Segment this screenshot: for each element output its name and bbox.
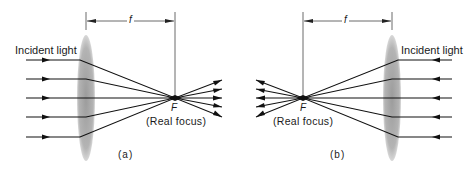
focus-letter-a: F [171, 103, 177, 113]
focal-length-label-a: f [127, 15, 134, 25]
panel-b [256, 12, 452, 161]
lens-diagram-canvas [0, 0, 472, 175]
panel-a [26, 12, 222, 161]
panel-caption-b: (b) [330, 150, 345, 160]
incident-light-label-b: Incident light [401, 45, 463, 56]
dimension-arrow-left-a [87, 19, 96, 23]
panel-caption-a: (a) [118, 150, 133, 160]
real-focus-label-b: (Real focus) [273, 116, 333, 127]
real-focus-label-a: (Real focus) [146, 116, 206, 127]
dimension-arrow-right-b [382, 19, 391, 23]
incident-light-label-a: Incident light [15, 45, 77, 56]
focus-letter-b: F [300, 103, 306, 113]
dimension-arrow-right-a [165, 19, 174, 23]
focal-length-label-b: f [342, 15, 349, 25]
dimension-arrow-left-b [304, 19, 313, 23]
